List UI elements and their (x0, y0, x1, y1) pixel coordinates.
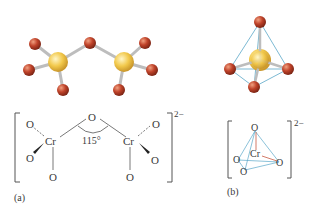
oxygen-atom (139, 37, 151, 49)
chromium-atom (48, 52, 68, 72)
chromate-structural-formula: O Cr O O O 2− (b) (227, 118, 304, 198)
oxygen-atom (113, 84, 125, 96)
right-bracket (167, 113, 172, 182)
atom-label-o: O (240, 166, 247, 177)
left-bracket (228, 121, 232, 178)
oxygen-atom (224, 63, 236, 75)
oxygen-atom (84, 37, 96, 49)
oxygen-atom (248, 81, 260, 93)
right-bracket (287, 121, 291, 178)
atom-label-o: O (49, 171, 57, 183)
atom-label-o: O (151, 154, 159, 166)
wedge-bond (139, 143, 150, 154)
oxygen-atom (29, 38, 41, 50)
panel-label-b: (b) (227, 186, 239, 198)
chromate-tetrahedral-model (224, 16, 294, 93)
oxygen-atom (146, 64, 158, 76)
oxygen-atom (57, 84, 69, 96)
wedge-bond (33, 143, 44, 154)
oxygen-atom (23, 64, 35, 76)
left-bracket (15, 113, 20, 182)
oxygen-atom (282, 63, 294, 75)
panel-label-a: (a) (14, 192, 25, 204)
atom-label-o: O (276, 157, 283, 168)
chromium-atom (114, 52, 134, 72)
atom-label-o: O (26, 152, 34, 164)
atom-label-cr: Cr (123, 135, 134, 147)
atom-label-o: O (152, 118, 160, 130)
charge-label: 2− (174, 109, 184, 119)
atom-label-o: O (233, 154, 240, 165)
dichromate-ball-stick-model (23, 37, 158, 96)
atom-label-o: O (88, 111, 96, 123)
bond-angle-label: 115° (82, 135, 101, 146)
oxygen-atom (254, 16, 266, 28)
atom-label-cr: Cr (250, 148, 261, 159)
atom-label-o: O (126, 171, 134, 183)
charge-label: 2− (294, 118, 304, 128)
atom-label-o: O (251, 122, 258, 133)
atom-label-o: O (26, 118, 34, 130)
atom-label-cr: Cr (45, 135, 56, 147)
figure-canvas: O Cr Cr O O O O O O 115° 2− (a) (0, 0, 324, 211)
dichromate-structural-formula: O Cr Cr O O O O O O 115° 2− (a) (14, 109, 184, 204)
